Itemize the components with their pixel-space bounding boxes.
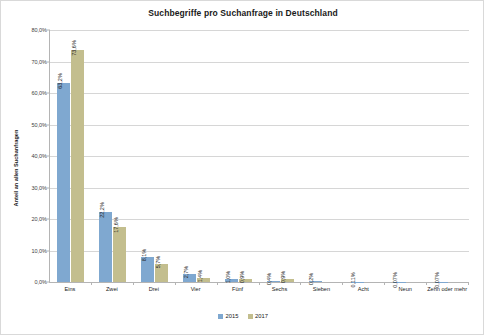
x-axis-category-labels: EinsZweiDreiVierFünfSechsSiebenAchtNeunZ… [49, 286, 468, 308]
bar-slot: 0,11% [351, 30, 364, 282]
chart-legend: 20152017 [1, 313, 484, 319]
bar-pair: 0,07% [427, 30, 469, 282]
bar-group: 0,07% [427, 30, 469, 282]
legend-label: 2017 [255, 313, 268, 319]
bar-pair: 8,1%5,7% [134, 30, 176, 282]
bar-slot: 1,0% [225, 30, 238, 282]
legend-swatch-icon [248, 314, 253, 319]
y-tick-label: 30,0% [31, 185, 47, 191]
bar-value-label: 8,1% [141, 248, 148, 261]
bar-pair: 1,0%0,9% [218, 30, 260, 282]
x-tick-label: Acht [342, 286, 384, 308]
bar-value-label: 5,7% [155, 256, 162, 269]
y-tick-label: 80,0% [31, 27, 47, 33]
y-tick-label: 70,0% [31, 59, 47, 65]
bar-pair: 0,07% [385, 30, 427, 282]
legend-item-2017[interactable]: 2017 [248, 313, 268, 319]
chart-title: Suchbegriffe pro Suchanfrage in Deutschl… [1, 8, 484, 18]
bar-pair: 2,7%1,4% [176, 30, 218, 282]
bar-slot: 0,9% [281, 30, 294, 282]
bar-value-label: 0,9% [239, 271, 246, 284]
x-tick-label: Zwei [91, 286, 133, 308]
bar-slot [365, 30, 378, 282]
bar-group: 22,2%17,6% [92, 30, 134, 282]
bar-slot: 5,7% [155, 30, 168, 282]
bar[interactable] [99, 212, 112, 282]
x-tick-label: Eins [49, 286, 91, 308]
bar-value-label: 0,11% [350, 272, 357, 287]
bar-slot: 0,9% [239, 30, 252, 282]
x-tick-label: Sechs [259, 286, 301, 308]
y-tick-label: 60,0% [31, 90, 47, 96]
bar-pair: 22,2%17,6% [92, 30, 134, 282]
bar[interactable] [113, 227, 126, 282]
bar-group: 0,2% [301, 30, 343, 282]
bar-group: 0,11% [343, 30, 385, 282]
bar-slot [449, 30, 462, 282]
bar-slot: 0,07% [393, 30, 406, 282]
y-axis-title: Anteil an allen Suchanfragen [10, 42, 22, 294]
legend-label: 2015 [226, 313, 239, 319]
x-tick-label: Fünf [217, 286, 259, 308]
bar-groups: 63,2%73,6%22,2%17,6%8,1%5,7%2,7%1,4%1,0%… [50, 30, 469, 282]
bar-value-label: 22,2% [99, 202, 106, 218]
bar-slot: 17,6% [113, 30, 126, 282]
bar-slot: 73,6% [71, 30, 84, 282]
bar-value-label: 0,4% [266, 272, 273, 285]
legend-swatch-icon [218, 314, 223, 319]
legend-item-2015[interactable]: 2015 [218, 313, 238, 319]
y-tick-label: 40,0% [31, 153, 47, 159]
x-tick-label: Drei [133, 286, 175, 308]
bar-pair: 0,4%0,9% [260, 30, 302, 282]
bar-pair: 63,2%73,6% [50, 30, 92, 282]
chart-container: Suchbegriffe pro Suchanfrage in Deutschl… [0, 0, 484, 335]
bar-slot: 22,2% [99, 30, 112, 282]
bar-group: 0,07% [385, 30, 427, 282]
bar-slot: 0,4% [267, 30, 280, 282]
x-tick-label: Zehn oder mehr [426, 286, 468, 308]
bar-slot: 2,7% [183, 30, 196, 282]
bar-group: 0,4%0,9% [260, 30, 302, 282]
bar-pair: 0,11% [343, 30, 385, 282]
y-tick-label: 10,0% [31, 248, 47, 254]
bar-value-label: 2,7% [183, 265, 190, 278]
plot-area: 0,0%10,0%20,0%30,0%40,0%50,0%60,0%70,0%8… [49, 30, 469, 283]
bar-pair: 0,2% [301, 30, 343, 282]
y-tick-label: 50,0% [31, 122, 47, 128]
x-tick-label: Neun [384, 286, 426, 308]
bar-slot: 0,07% [435, 30, 448, 282]
bar-value-label: 1,0% [225, 271, 232, 284]
bar-value-label: 63,2% [57, 73, 64, 89]
bar-value-label: 0,9% [280, 271, 287, 284]
bar-group: 1,0%0,9% [218, 30, 260, 282]
y-tick-label: 0,0% [34, 279, 47, 285]
bar[interactable] [71, 50, 84, 282]
bar-slot: 1,4% [197, 30, 210, 282]
bar-value-label: 17,6% [113, 217, 120, 233]
bar-slot [323, 30, 336, 282]
x-tick-label: Vier [175, 286, 217, 308]
bar-group: 63,2%73,6% [50, 30, 92, 282]
bar-value-label: 1,4% [197, 269, 204, 282]
x-tick-label: Sieben [300, 286, 342, 308]
bar-group: 2,7%1,4% [176, 30, 218, 282]
bar-value-label: 0,2% [308, 273, 315, 286]
bar[interactable] [57, 83, 70, 282]
bar-slot: 8,1% [141, 30, 154, 282]
bar-slot: 0,2% [309, 30, 322, 282]
y-tick-label: 20,0% [31, 216, 47, 222]
bar-slot: 63,2% [57, 30, 70, 282]
bar-value-label: 73,6% [71, 40, 78, 56]
bar-group: 8,1%5,7% [134, 30, 176, 282]
bar-slot [407, 30, 420, 282]
